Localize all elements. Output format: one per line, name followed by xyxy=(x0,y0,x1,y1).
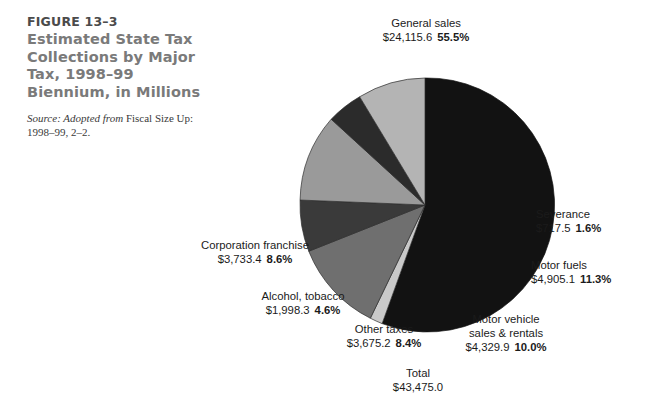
label-general-sales-name: General sales xyxy=(336,16,516,30)
label-other-taxes-name: Other taxes xyxy=(316,322,452,336)
label-alcohol-tobacco: Alcohol, tobacco $1,998.34.6% xyxy=(228,289,378,317)
label-corp-franchise-pct: 8.6% xyxy=(267,253,293,265)
label-general-sales-value: $24,115.6 xyxy=(383,31,432,43)
label-motor-vehicle-values: $4,329.910.0% xyxy=(430,340,582,354)
label-motor-fuels-name: Motor fuels xyxy=(531,258,655,272)
label-motor-fuels-values: $4,905.111.3% xyxy=(531,272,655,286)
label-alcohol-tobacco-values: $1,998.34.6% xyxy=(228,303,378,317)
label-motor-vehicle-sales-rentals: Motor vehicle sales & rentals $4,329.910… xyxy=(430,312,582,355)
label-corp-franchise-value: $3,733.4 xyxy=(218,253,262,265)
label-severance-name: Severance xyxy=(536,207,654,221)
label-severance-values: $717.51.6% xyxy=(536,221,654,235)
label-severance-value: $717.5 xyxy=(536,222,571,234)
label-motor-vehicle-value: $4,329.9 xyxy=(465,341,509,353)
label-motor-fuels: Motor fuels $4,905.111.3% xyxy=(531,258,655,286)
label-corp-franchise-name: Corporation franchise xyxy=(174,238,336,252)
label-alcohol-tobacco-pct: 4.6% xyxy=(315,304,341,316)
label-other-taxes-value: $3,675.2 xyxy=(347,337,391,349)
label-total: Total $43,475.0 xyxy=(355,366,481,394)
label-motor-vehicle-name-line2: sales & rentals xyxy=(430,326,582,340)
label-alcohol-tobacco-value: $1,998.3 xyxy=(266,304,310,316)
pie-chart: General sales $24,115.655.5% Severance $… xyxy=(0,0,658,411)
label-alcohol-tobacco-name: Alcohol, tobacco xyxy=(228,289,378,303)
label-motor-vehicle-name-line1: Motor vehicle xyxy=(430,312,582,326)
label-corporation-franchise: Corporation franchise $3,733.48.6% xyxy=(174,238,336,266)
label-motor-fuels-value: $4,905.1 xyxy=(531,273,575,285)
label-severance: Severance $717.51.6% xyxy=(536,207,654,235)
label-other-taxes-pct: 8.4% xyxy=(396,337,422,349)
label-motor-fuels-pct: 11.3% xyxy=(580,273,611,285)
label-other-taxes: Other taxes $3,675.28.4% xyxy=(316,322,452,350)
label-motor-vehicle-pct: 10.0% xyxy=(514,341,546,353)
label-corp-franchise-values: $3,733.48.6% xyxy=(174,252,336,266)
label-other-taxes-values: $3,675.28.4% xyxy=(316,336,452,350)
label-general-sales-pct: 55.5% xyxy=(437,31,469,43)
figure-page: FIGURE 13–3 Estimated State Tax Collecti… xyxy=(0,0,658,411)
label-severance-pct: 1.6% xyxy=(576,222,602,234)
label-general-sales: General sales $24,115.655.5% xyxy=(336,16,516,44)
label-general-sales-values: $24,115.655.5% xyxy=(336,30,516,44)
label-total-name: Total xyxy=(355,366,481,380)
label-total-value: $43,475.0 xyxy=(355,380,481,394)
